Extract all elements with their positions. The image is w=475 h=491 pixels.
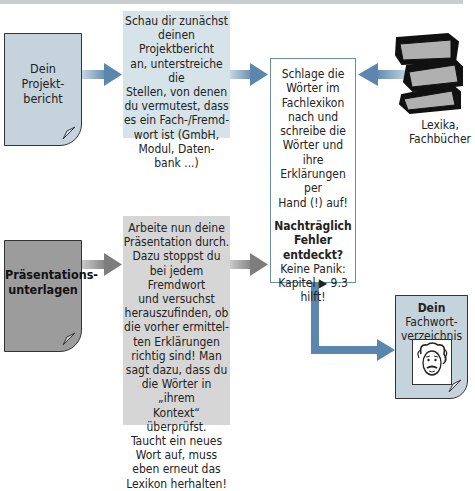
step3-line: Wort auf, muss bbox=[123, 448, 230, 462]
step3-line: Arbeite nun deine bbox=[123, 221, 230, 235]
step3-line: Taucht ein neues bbox=[123, 434, 230, 448]
step2-bold-line: Nachträglich bbox=[271, 219, 355, 233]
step2-line: Fachlexikon bbox=[271, 96, 355, 110]
arrow-step1-to-step2 bbox=[230, 63, 268, 86]
step3-line: ten Erklärungen bbox=[123, 335, 230, 349]
step3-box: Arbeite nun deine Präsentation durch. Da… bbox=[123, 216, 230, 425]
step3-line: Kontext“ überprüfst. bbox=[123, 406, 230, 434]
step2-line: Erklärungen per bbox=[271, 167, 355, 196]
step2-line: Schlage die bbox=[271, 67, 355, 81]
step2-line: Wörter im bbox=[271, 81, 355, 95]
step3-line: bei jedem Fremdwort bbox=[123, 264, 230, 292]
doc-projektbericht: Dein Projekt- bericht bbox=[4, 33, 82, 146]
doc-praesentationsunterlagen: Präsentations- unterlagen bbox=[4, 240, 82, 352]
books-label-line: Fachbücher bbox=[404, 132, 475, 146]
step3-line: Lexikon herhalten! bbox=[123, 477, 230, 491]
step2-line: nach und bbox=[271, 110, 355, 124]
step3-line: herauszufinden, ob bbox=[123, 306, 230, 320]
page-curl-icon bbox=[61, 125, 77, 141]
einstein-portrait-icon bbox=[412, 339, 452, 385]
books-label: Lexika, Fachbücher bbox=[404, 118, 475, 146]
step1-line: du vermutest, dass bbox=[123, 99, 230, 113]
step3-line: richtig sind! Man bbox=[123, 349, 230, 363]
step2-tail-line: Keine Panik: bbox=[271, 262, 355, 276]
step1-line: deinen Projektbericht bbox=[123, 28, 230, 56]
step2-tail-line: hilft! bbox=[271, 290, 355, 304]
arrow-step3-to-step2 bbox=[230, 253, 268, 276]
step3-line: und versuchst bbox=[123, 292, 230, 306]
step1-line: Schau dir zunächst bbox=[123, 14, 230, 28]
step1-line: es ein Fach-/Fremd- bbox=[123, 113, 230, 127]
doc-label-line: Dein bbox=[5, 61, 81, 76]
step1-line: wort ist (GmbH, bbox=[123, 128, 230, 142]
step2-bold-line: entdeckt? bbox=[271, 248, 355, 262]
step1-line: bank ...) bbox=[123, 156, 230, 170]
page-curl-icon bbox=[61, 331, 77, 347]
step1-line: an, unterstreiche die bbox=[123, 57, 230, 85]
step1-line: Modul, Daten- bbox=[123, 142, 230, 156]
doc-label-line: unterlagen bbox=[5, 282, 81, 297]
step3-line: die vorher ermittel- bbox=[123, 320, 230, 334]
step3-line: die Wörter in „ihrem bbox=[123, 377, 230, 405]
step1-line: Stellen, von denen bbox=[123, 85, 230, 99]
step2-box: Schlage die Wörter im Fachlexikon nach u… bbox=[270, 58, 356, 283]
arrow-projekt-to-step1 bbox=[82, 63, 122, 86]
step2-line: Wörter und ihre bbox=[271, 138, 355, 167]
doc-label-line: Projekt- bbox=[5, 76, 81, 91]
step2-bold-line: Fehler bbox=[271, 233, 355, 247]
fachwort-title: Dein bbox=[396, 301, 467, 315]
step2-line: schreibe die bbox=[271, 124, 355, 138]
step3-line: Präsentation durch. bbox=[123, 235, 230, 249]
books-stack-icon bbox=[396, 34, 462, 113]
doc-label-line: Präsentations- bbox=[5, 267, 81, 282]
step3-line: sagt dazu, dass du bbox=[123, 363, 230, 377]
step3-line: Dazu stoppst du bbox=[123, 249, 230, 263]
doc-label-line: bericht bbox=[5, 91, 81, 106]
books-label-line: Lexika, bbox=[404, 118, 475, 132]
step3-line: eben erneut das bbox=[123, 462, 230, 476]
step2-line: Hand (!) auf! bbox=[271, 196, 355, 210]
arrow-books-to-step2 bbox=[358, 63, 408, 86]
step1-box: Schau dir zunächst deinen Projektbericht… bbox=[123, 11, 230, 138]
step2-chapter-reference: Kapitel ▶ 9.3 bbox=[271, 276, 355, 290]
doc-label-line: Fachwort- bbox=[396, 315, 467, 329]
